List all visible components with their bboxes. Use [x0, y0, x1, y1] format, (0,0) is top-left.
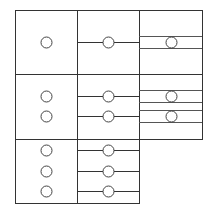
circle-node-icon: [103, 145, 114, 156]
grid-diagram: [0, 0, 214, 211]
circle-node-icon: [41, 91, 52, 102]
diagram-canvas: [0, 0, 214, 211]
circle-node-icon: [103, 166, 114, 177]
circle-node-icon: [166, 91, 177, 102]
cell-r2-c2: [77, 75, 140, 140]
circle-node-icon: [41, 37, 52, 48]
cell-r3-c2: [77, 140, 140, 204]
cell-r1-c3: [139, 11, 203, 75]
circle-node-icon: [103, 91, 114, 102]
cell-border: [140, 75, 203, 140]
cell-r1-c1: [16, 11, 78, 75]
circle-node-icon: [41, 186, 52, 197]
cell-border: [78, 75, 140, 140]
circle-node-icon: [103, 186, 114, 197]
circle-node-icon: [166, 111, 177, 122]
cell-r2-c1: [16, 75, 78, 140]
circle-node-icon: [103, 111, 114, 122]
circle-node-icon: [41, 111, 52, 122]
cell-border: [16, 75, 78, 140]
circle-node-icon: [166, 37, 177, 48]
circle-node-icon: [41, 145, 52, 156]
cell-r3-c1: [16, 140, 78, 204]
circle-node-icon: [41, 166, 52, 177]
cell-r2-c3: [139, 75, 203, 140]
cell-r1-c2: [77, 11, 140, 75]
circle-node-icon: [103, 37, 114, 48]
